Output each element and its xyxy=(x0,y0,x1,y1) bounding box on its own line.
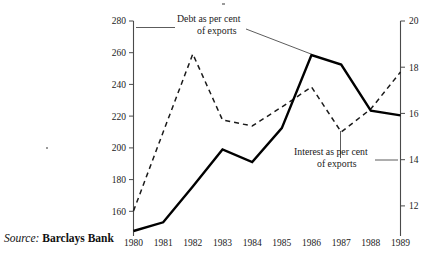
left-tick-260: 260 xyxy=(112,48,127,58)
debt-callout-leader-line xyxy=(246,29,311,54)
right-tick-14: 14 xyxy=(409,155,419,165)
right-axis-ticks xyxy=(401,21,406,206)
right-tick-12: 12 xyxy=(409,201,419,211)
interest-annotation-line2: of exports xyxy=(317,158,357,169)
year-1985: 1985 xyxy=(272,238,291,248)
year-1982: 1982 xyxy=(183,238,202,248)
source-name: Barclays Bank xyxy=(42,232,114,244)
right-axis-tick-labels: 20 18 16 14 12 xyxy=(409,16,419,211)
interest-annotation: Interest as per cent of exports xyxy=(294,146,368,169)
interest-annotation-line1: Interest as per cent xyxy=(294,146,368,157)
debt-annotation-line1: Debt as per cent xyxy=(177,13,241,24)
source-caption: Source: Barclays Bank xyxy=(4,232,114,244)
right-tick-18: 18 xyxy=(409,63,419,73)
left-axis-tick-labels: 280 260 240 220 200 180 160 xyxy=(112,16,127,216)
series-debt-line xyxy=(134,55,401,231)
year-1980: 1980 xyxy=(124,238,143,248)
left-tick-180: 180 xyxy=(112,175,127,185)
debt-annotation-line2: of exports xyxy=(197,25,237,36)
year-1981: 1981 xyxy=(154,238,173,248)
source-label: Source: xyxy=(4,232,39,244)
left-tick-240: 240 xyxy=(112,80,127,90)
x-axis-year-labels: 1980 1981 1982 1983 1984 1985 1986 1987 … xyxy=(124,238,410,248)
year-1986: 1986 xyxy=(302,238,321,248)
year-1989: 1989 xyxy=(391,238,410,248)
chart-figure: 280 260 240 220 200 180 160 20 18 16 14 … xyxy=(0,0,430,260)
left-tick-280: 280 xyxy=(112,16,127,26)
right-tick-16: 16 xyxy=(409,109,419,119)
year-1987: 1987 xyxy=(332,238,351,248)
chart-plot: 280 260 240 220 200 180 160 20 18 16 14 … xyxy=(0,0,430,260)
series-interest-line xyxy=(134,54,401,211)
left-axis-ticks xyxy=(129,21,134,211)
year-1983: 1983 xyxy=(213,238,232,248)
right-tick-20: 20 xyxy=(409,16,419,26)
left-tick-220: 220 xyxy=(112,112,127,122)
debt-annotation: Debt as per cent of exports xyxy=(177,13,241,36)
year-1988: 1988 xyxy=(361,238,380,248)
year-1984: 1984 xyxy=(243,238,262,248)
left-tick-200: 200 xyxy=(112,143,127,153)
left-tick-160: 160 xyxy=(112,207,127,217)
